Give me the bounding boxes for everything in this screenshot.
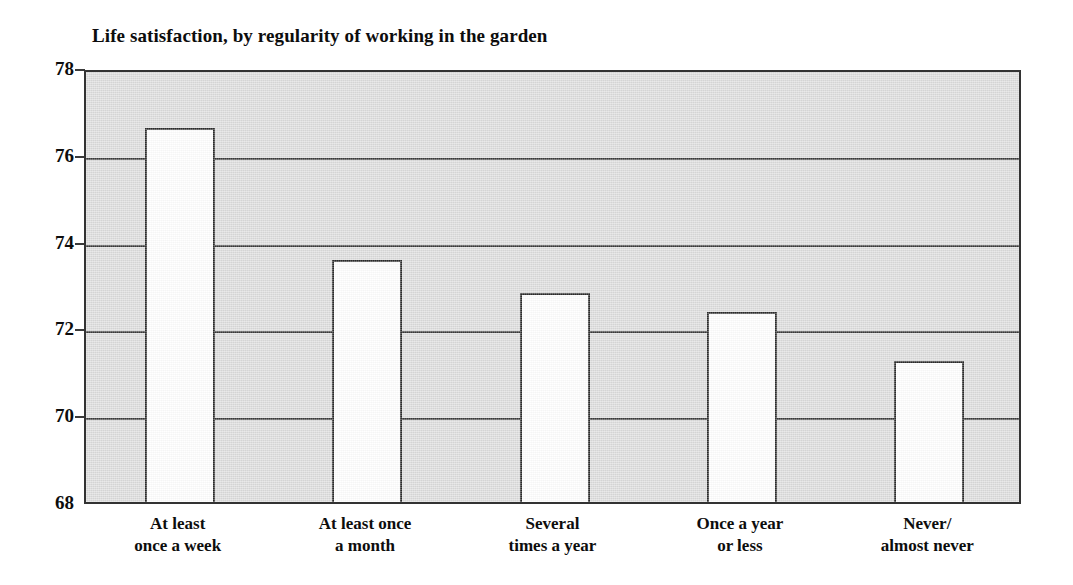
y-axis-tick-label: 68 [34, 492, 74, 514]
x-axis-category-label: At least once a month [271, 513, 458, 558]
x-axis-category-label: Once a year or less [646, 513, 833, 558]
bar [894, 361, 964, 504]
bar [145, 128, 215, 504]
bar [332, 260, 402, 504]
bar [707, 312, 777, 504]
y-axis-tick-label: 72 [34, 318, 74, 340]
y-axis-tick-label: 78 [34, 58, 74, 80]
chart-title: Life satisfaction, by regularity of work… [92, 25, 548, 47]
y-axis-tick-label: 74 [34, 232, 74, 254]
y-axis-tick-label: 70 [34, 405, 74, 427]
x-axis-category-label: Never/ almost never [834, 513, 1021, 558]
x-axis-category-label: Several times a year [459, 513, 646, 558]
plot-area [84, 70, 1021, 504]
gridline [86, 158, 1019, 160]
gridline [86, 245, 1019, 247]
chart-figure: Life satisfaction, by regularity of work… [0, 0, 1073, 585]
x-axis-category-label: At least once a week [84, 513, 271, 558]
bar [520, 293, 590, 504]
y-axis-tick-label: 76 [34, 145, 74, 167]
